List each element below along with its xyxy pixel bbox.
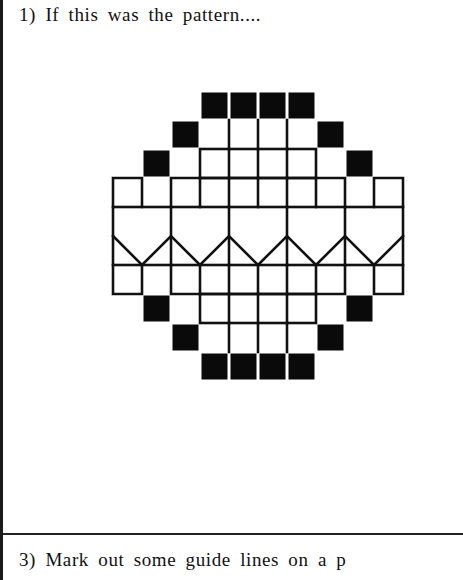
filled-square — [289, 354, 315, 380]
filled-square — [347, 151, 373, 177]
filled-square — [173, 122, 199, 148]
filled-square — [260, 93, 286, 119]
filled-square — [231, 93, 257, 119]
filled-square — [144, 296, 170, 322]
filled-square — [231, 354, 257, 380]
filled-square — [202, 354, 228, 380]
filled-square — [347, 296, 373, 322]
step-3-caption: 3) Mark out some guide lines on a p — [19, 549, 346, 571]
section-divider — [3, 533, 463, 535]
filled-square — [260, 354, 286, 380]
filled-square — [173, 325, 199, 351]
filled-square — [318, 325, 344, 351]
filled-square — [289, 93, 315, 119]
filled-square — [202, 93, 228, 119]
knitting-pattern-chart — [0, 0, 463, 580]
filled-square — [318, 122, 344, 148]
filled-square — [144, 151, 170, 177]
